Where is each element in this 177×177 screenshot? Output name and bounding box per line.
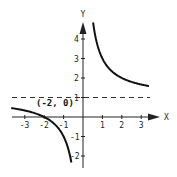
y-tick-label: -1 <box>70 133 80 142</box>
x-axis-label: X <box>164 113 169 122</box>
y-tick-label: 1 <box>74 94 79 103</box>
x-tick-label: 2 <box>119 121 124 130</box>
curve-left-branch <box>11 108 71 162</box>
curve-right-branch <box>93 23 149 87</box>
y-tick-label: 3 <box>74 55 79 64</box>
y-tick-label: 2 <box>74 74 79 83</box>
x-tick-label: 3 <box>139 121 144 130</box>
x-tick-label: -3 <box>20 121 30 130</box>
y-axis-label: Y <box>81 10 86 19</box>
hyperbola-chart: XY-3-2-1123-2-11234(-2, 0) <box>0 0 177 177</box>
y-tick-label: 4 <box>74 35 79 44</box>
point-annotation: (-2, 0) <box>36 98 74 108</box>
x-tick-label: 1 <box>100 121 105 130</box>
x-tick-label: -1 <box>59 121 69 130</box>
x-tick-label: -2 <box>39 121 49 130</box>
y-axis-arrow-icon <box>80 22 87 34</box>
x-axis-arrow-icon <box>148 114 160 121</box>
